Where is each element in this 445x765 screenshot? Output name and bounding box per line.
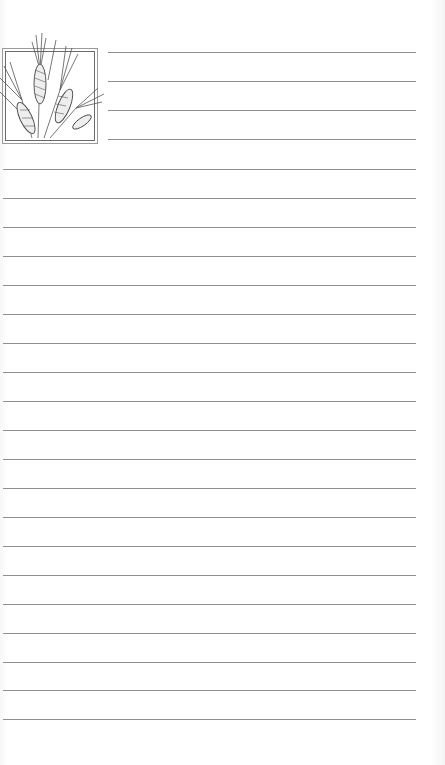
rule-line — [3, 314, 416, 315]
rule-line — [3, 430, 416, 431]
rule-line — [3, 662, 416, 663]
rule-line — [3, 343, 416, 344]
rule-line — [3, 285, 416, 286]
short-rule-line — [108, 110, 416, 111]
short-rule-line — [108, 81, 416, 82]
wheat-sheaf-icon — [0, 30, 108, 140]
rule-line — [3, 690, 416, 691]
rule-line — [3, 169, 416, 170]
rule-line — [3, 372, 416, 373]
rule-line — [3, 401, 416, 402]
wheat-logo — [2, 46, 98, 146]
rule-line — [3, 198, 416, 199]
short-rule-line — [108, 139, 416, 140]
rule-line — [3, 633, 416, 634]
rule-line — [3, 459, 416, 460]
rule-line — [3, 256, 416, 257]
notepad-page — [0, 0, 445, 765]
rule-line — [3, 575, 416, 576]
rule-line — [3, 604, 416, 605]
rule-line — [3, 488, 416, 489]
rule-line — [3, 546, 416, 547]
rule-line — [3, 517, 416, 518]
short-rule-line — [108, 52, 416, 53]
rule-line — [3, 719, 416, 720]
rule-line — [3, 227, 416, 228]
